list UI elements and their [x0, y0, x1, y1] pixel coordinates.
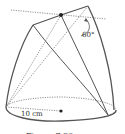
right-outer-curve — [88, 6, 114, 110]
inner-curve-left — [33, 25, 108, 115]
dotted-line-top-to-base-left — [6, 15, 61, 107]
angle-arrowhead — [84, 18, 88, 22]
base-center-point — [59, 109, 62, 112]
top-point — [59, 13, 63, 17]
angle-label: 60° — [82, 31, 94, 39]
radius-label: 10 cm — [21, 110, 43, 118]
base-ellipse-back — [6, 97, 116, 110]
left-outer-curve — [6, 25, 33, 107]
figure-caption: Figure 7.80 — [26, 131, 73, 134]
wedge-solid-diagram: 60° 10 cm Figure 7.80 — [0, 0, 125, 134]
